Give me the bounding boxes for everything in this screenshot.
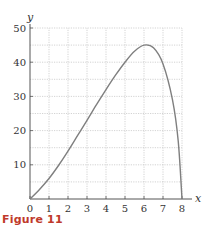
svg-text:40: 40 [13,57,26,68]
chart: 0123456781020304050 x y [0,0,211,229]
axes [30,24,192,199]
svg-text:20: 20 [13,125,26,136]
tick-labels: 0123456781020304050 [13,23,185,215]
svg-text:7: 7 [160,203,166,214]
svg-text:50: 50 [13,23,26,34]
svg-text:4: 4 [103,203,109,214]
svg-text:8: 8 [179,203,185,214]
svg-text:2: 2 [65,203,71,214]
x-axis-label: x [195,192,202,205]
svg-text:3: 3 [84,203,90,214]
figure-caption: Figure 11 [2,213,63,226]
svg-text:6: 6 [141,203,147,214]
svg-text:5: 5 [122,203,128,214]
svg-text:30: 30 [13,91,26,102]
y-axis-label: y [26,11,34,24]
svg-text:10: 10 [13,159,26,170]
